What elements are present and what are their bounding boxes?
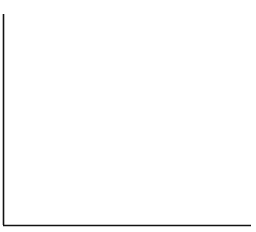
groups-diagram [0, 0, 256, 232]
